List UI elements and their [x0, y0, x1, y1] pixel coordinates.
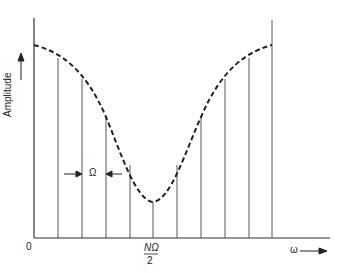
center-label-numerator: NΩ	[144, 242, 159, 253]
dashed-envelope	[34, 45, 272, 202]
sample-lines	[58, 20, 272, 238]
omega-arrow-icon	[300, 248, 327, 254]
diagram-canvas	[0, 0, 342, 273]
spacing-label: Ω	[89, 167, 96, 178]
origin-label: 0	[26, 241, 32, 252]
center-label-denominator: 2	[147, 255, 153, 266]
amplitude-arrow-icon	[18, 53, 24, 80]
x-axis-label: ω	[290, 244, 298, 255]
y-axis-label: Amplitude	[2, 73, 13, 117]
